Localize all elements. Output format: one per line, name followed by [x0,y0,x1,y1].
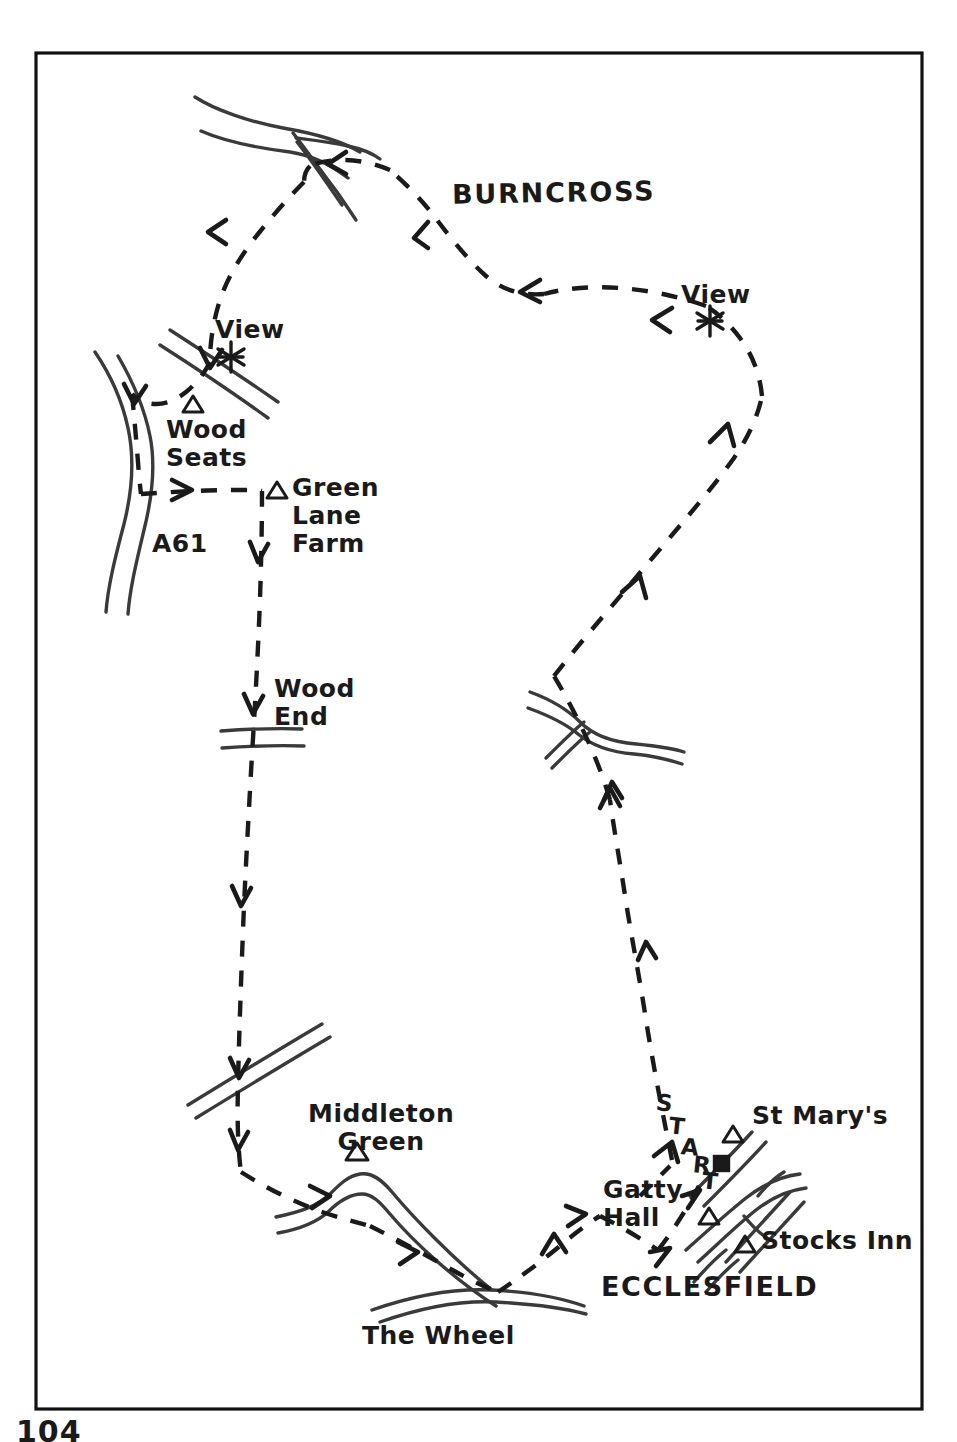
arrow-ne-2 [710,424,734,446]
map-root: .frame { fill:none; stroke:#111111; stro… [0,0,957,1442]
route-segment-along-a61 [132,394,141,494]
arrow-south-2 [232,886,251,906]
road-middleton-the-wheel [276,1174,586,1322]
route-segment-wheel-to-ecclesfield [498,1216,600,1292]
view-star-left [218,342,244,372]
tri-stocks-inn [735,1236,755,1252]
label-stocks-inn: Stocks Inn [761,1227,913,1255]
road-wood-end [221,729,304,748]
arrow-burncross-w [520,280,540,302]
start-letter-t2: T [701,1167,719,1194]
label-view-left: View [215,316,285,344]
route-segment-top-junction [310,160,390,170]
label-the-wheel: The Wheel [362,1322,515,1350]
label-a61: A61 [152,530,208,558]
label-st-marys: St Mary's [752,1102,888,1130]
label-wood-seats: Wood Seats [166,416,247,472]
arrow-ecclesfield-e [566,1206,586,1226]
label-burncross: BURNCROSS [452,176,656,210]
route-segment-junction-spur [304,166,310,182]
label-ecclesfield: ECCLESFIELD [601,1272,818,1302]
label-view-right: View [681,281,751,309]
arrow-wheel-e [398,1242,418,1264]
arrow-view-right [652,308,672,332]
route-segment-to-green-lane [141,490,262,494]
tri-st-marys [723,1126,743,1142]
arrow-burncross-nw [414,222,428,248]
tri-wood-seats [183,396,203,412]
label-gatty-hall: Gatty Hall [603,1176,683,1232]
label-green-lane-farm: Green Lane Farm [292,474,379,558]
viewpoint-markers [218,306,723,372]
label-wood-end: Wood End [274,675,355,731]
view-star-right [697,306,723,336]
page-frame [36,53,922,1409]
tri-green-lane-farm [267,482,287,498]
arrow-start-ne [654,1142,678,1162]
arrow-south-1 [250,542,268,562]
label-middleton-green: Middleton Green [308,1100,454,1156]
arrow-middleton-e [310,1186,330,1208]
tri-gatty-hall [699,1208,719,1224]
arrow-sw-1 [208,220,226,244]
road-mid-right-junction [528,692,684,768]
route-segment-middleton-to-wheel [241,1172,370,1226]
arrow-ne-1 [622,576,646,598]
arrow-top-junction [328,152,346,174]
arrow-north-1 [638,942,656,960]
arrow-gatty-e [650,1248,670,1266]
page-number: 104 [16,1414,82,1442]
